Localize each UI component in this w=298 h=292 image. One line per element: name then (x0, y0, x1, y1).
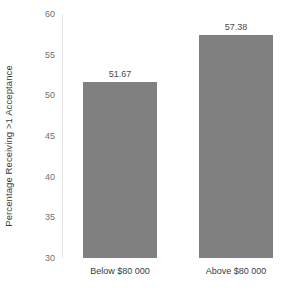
x-tick-label: Above $80 000 (206, 266, 267, 276)
bar-value-label: 51.67 (109, 69, 132, 80)
y-tick-label: 35 (33, 212, 55, 222)
plot-area: 51.67 57.38 (62, 14, 294, 258)
y-tick-label: 60 (33, 9, 55, 19)
y-axis-title: Percentage Receiving >1 Acceptance (0, 0, 16, 292)
x-tick-label: Below $80 000 (90, 266, 150, 276)
y-tick-label: 50 (33, 90, 55, 100)
y-tick-label: 40 (33, 172, 55, 182)
bar-chart: Percentage Receiving >1 Acceptance 60 55… (0, 0, 298, 292)
y-tick-label: 55 (33, 50, 55, 60)
bar-series-item[interactable] (83, 82, 157, 258)
bar-value-label: 57.38 (225, 22, 248, 33)
y-axis-line (62, 14, 63, 258)
x-axis-category-labels: Below $80 000 Above $80 000 (62, 266, 294, 282)
y-axis-tick-labels: 60 55 50 45 40 35 30 (33, 14, 55, 258)
y-tick-label: 45 (33, 131, 55, 141)
y-tick-label: 30 (33, 253, 55, 263)
bar-series-item[interactable] (199, 35, 273, 258)
